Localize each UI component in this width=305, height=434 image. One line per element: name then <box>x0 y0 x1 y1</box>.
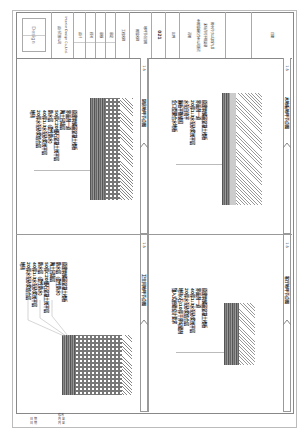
approval-cell-4: 审定 <box>106 12 116 58</box>
layer-section-drawing <box>222 93 262 205</box>
drawing-name-cell: 图纸名称 地坪节点详图 <box>130 12 152 58</box>
approval-cell-3: 审核 <box>96 12 106 58</box>
drawing-name: 地坪节点详图 <box>142 26 147 44</box>
date-cell: 日期 <box>252 12 292 58</box>
company-name: 设计有限公司 <box>56 26 61 44</box>
layer-section-drawing <box>62 335 132 395</box>
leader-line <box>34 170 90 171</box>
logo-text: Design <box>31 26 37 43</box>
logo: Design <box>22 18 46 52</box>
company-name-en: Interior Design Co.,Ltd. <box>64 17 68 54</box>
chevron-icon <box>283 142 291 148</box>
legend-cell <box>226 12 252 58</box>
leader-lines <box>20 300 70 340</box>
drawing-no-cell: 021 <box>152 12 166 58</box>
panel-divider-horizontal <box>16 234 292 235</box>
scale-cell: 比例 <box>166 12 180 58</box>
approval-cell-1: 设计 <box>74 12 86 58</box>
layer-section-drawing <box>224 303 255 365</box>
approval-cell-2: 校对 <box>86 12 96 58</box>
panel-divider-vertical <box>148 58 149 412</box>
chevron-icon <box>140 319 148 325</box>
panel-label-strip-bathroom: 1:5 卫生间地坪节点图 <box>140 235 148 412</box>
project-cell: 工程名称 <box>116 12 130 58</box>
layer-section-drawing <box>90 98 133 200</box>
company-cell: 设计有限公司 Interior Design Co.,Ltd. <box>52 12 74 58</box>
logo-cell: Design <box>16 12 52 58</box>
leader-line <box>176 352 224 353</box>
panel-label-strip-living-room: 1:5 客厅地坪节点图 <box>283 235 291 412</box>
title-block: Design 设计有限公司 Interior Design Co.,Ltd. 设… <box>16 12 292 59</box>
drawing-no: 021 <box>156 30 161 39</box>
notes-cell: 说明 本图纸版权归本公司所有 未经许可不得复制 图中尺寸以现场为准 <box>180 12 226 58</box>
panel-label-strip-kitchen: 1:5 厨房地坪节点图 <box>140 58 148 234</box>
chevron-icon <box>283 319 291 325</box>
leader-line <box>176 164 222 165</box>
chevron-icon <box>140 142 148 148</box>
panel-label-strip-wood-floor: 1:5 木地板地坪节点图 <box>283 58 291 234</box>
